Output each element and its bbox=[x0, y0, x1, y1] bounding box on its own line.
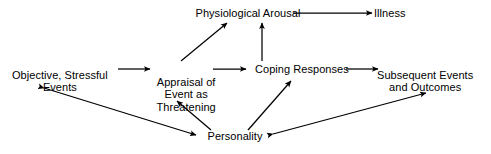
node-label-line: Event as bbox=[157, 88, 216, 101]
node-label-line: Appraisal of bbox=[157, 76, 216, 89]
node-label-line: Coping Responses bbox=[255, 63, 349, 76]
node-physiological-arousal: Physiological Arousal bbox=[196, 7, 301, 20]
node-label-line: Physiological Arousal bbox=[196, 7, 301, 20]
node-subsequent-events-and-outcomes: Subsequent Eventsand Outcomes bbox=[377, 69, 473, 94]
node-personality: Personality bbox=[208, 130, 263, 143]
stress-coping-diagram: Physiological ArousalIllnessObjective, S… bbox=[0, 0, 491, 154]
node-coping-responses: Coping Responses bbox=[255, 63, 349, 76]
node-objective-stressful-events: Objective, StressfulEvents bbox=[12, 69, 108, 94]
node-label-line: Illness bbox=[374, 7, 406, 20]
node-label-line: Objective, Stressful bbox=[12, 69, 108, 82]
edge-personality-subsequent-bidirectional bbox=[273, 93, 426, 134]
edge-personality-to-coping bbox=[248, 81, 291, 130]
node-label-line: and Outcomes bbox=[377, 81, 473, 94]
node-label-line: Personality bbox=[208, 130, 263, 143]
node-illness: Illness bbox=[374, 7, 406, 20]
node-label-line: Subsequent Events bbox=[377, 69, 473, 82]
edge-appraisal-to-arousal bbox=[181, 23, 227, 61]
node-label-line: Threatening bbox=[157, 101, 216, 114]
node-appraisal-of-event-as-threatening: Appraisal ofEvent asThreatening bbox=[157, 76, 216, 114]
node-label-line: Events bbox=[12, 81, 108, 94]
